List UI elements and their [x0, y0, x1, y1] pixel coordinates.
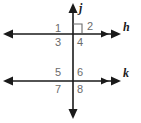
line-k-right-arrowhead	[111, 77, 121, 86]
angle-label-6: 6	[74, 67, 86, 78]
angle-label-8: 8	[74, 84, 86, 95]
line-h-right-arrowhead	[111, 30, 121, 39]
line-k-left-arrowhead	[3, 77, 13, 86]
line-j-top-arrowhead	[69, 3, 78, 13]
line-label-j: j	[79, 2, 82, 14]
geometry-diagram: 1 2 3 4 5 6 7 8 j h k	[0, 0, 141, 123]
line-h-direction-tick	[101, 31, 109, 38]
angle-label-4: 4	[74, 37, 86, 48]
line-j	[69, 3, 78, 119]
angle-label-5: 5	[52, 67, 64, 78]
line-k-direction-tick	[101, 78, 109, 85]
diagram-svg	[0, 0, 141, 123]
line-h-left-arrowhead	[3, 30, 13, 39]
angle-label-1: 1	[52, 23, 64, 34]
angle-label-3: 3	[52, 37, 64, 48]
right-angle-marker-icon	[73, 24, 82, 33]
angle-label-7: 7	[52, 84, 64, 95]
line-label-k: k	[123, 67, 129, 79]
angle-label-2: 2	[84, 21, 96, 32]
line-label-h: h	[123, 21, 130, 33]
line-j-bottom-arrowhead	[69, 109, 78, 119]
